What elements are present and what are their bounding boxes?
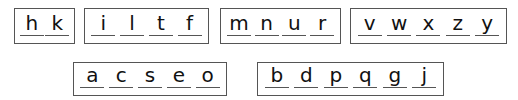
letter-cell: u — [281, 13, 307, 36]
letter: j — [421, 65, 427, 87]
writing-baseline — [149, 35, 173, 36]
letter-group-box: acseo — [73, 62, 227, 96]
letter: m — [229, 13, 248, 35]
letter: h — [25, 13, 38, 35]
letter-cell: w — [386, 13, 412, 36]
letter-cell: l — [119, 13, 145, 36]
letter-cell: n — [254, 13, 280, 36]
writing-baseline — [324, 87, 348, 88]
letter: r — [318, 13, 326, 35]
writing-baseline — [265, 87, 289, 88]
letter: u — [288, 13, 301, 35]
letter-group-box: iltf — [84, 8, 209, 44]
letter-cell: i — [90, 13, 116, 36]
writing-baseline — [412, 87, 436, 88]
letter: a — [86, 65, 98, 87]
letter: o — [201, 65, 213, 87]
letter-cell: g — [382, 65, 408, 88]
writing-baseline — [416, 35, 440, 36]
letter: y — [481, 13, 493, 35]
writing-baseline — [138, 87, 162, 88]
letter: g — [388, 65, 401, 87]
letter: n — [260, 13, 273, 35]
letter: d — [300, 65, 313, 87]
writing-baseline — [109, 87, 133, 88]
letter-cell: c — [108, 65, 134, 88]
letter-cell: b — [264, 65, 290, 88]
letter-cell: s — [137, 65, 163, 88]
writing-baseline — [475, 35, 499, 36]
letter: k — [51, 13, 63, 35]
writing-baseline — [446, 35, 470, 36]
writing-baseline — [120, 35, 144, 36]
letter-cell: k — [45, 13, 71, 36]
letter: t — [157, 13, 165, 35]
letter-cell: e — [166, 65, 192, 88]
writing-baseline — [167, 87, 191, 88]
letter-group-box: hk — [14, 8, 75, 44]
letter: i — [101, 13, 107, 35]
letter-cell: z — [445, 13, 471, 36]
writing-baseline — [310, 35, 334, 36]
letter-cell: v — [357, 13, 383, 36]
letter: q — [359, 65, 372, 87]
writing-baseline — [196, 87, 220, 88]
letter: e — [173, 65, 185, 87]
writing-baseline — [358, 35, 382, 36]
letter-cell: j — [411, 65, 437, 88]
writing-baseline — [387, 35, 411, 36]
writing-baseline — [80, 87, 104, 88]
writing-baseline — [294, 87, 318, 88]
letter-cell: r — [309, 13, 335, 36]
writing-baseline — [255, 35, 279, 36]
letter-cell: h — [19, 13, 45, 36]
letter: v — [364, 13, 376, 35]
letter-cell: x — [415, 13, 441, 36]
letter: b — [270, 65, 283, 87]
writing-baseline — [20, 35, 44, 36]
letter-cell: d — [293, 65, 319, 88]
letter: c — [116, 65, 127, 87]
writing-baseline — [178, 35, 202, 36]
letter-cell: t — [148, 13, 174, 36]
letter-cell: f — [177, 13, 203, 36]
letter: w — [391, 13, 407, 35]
letter: x — [423, 13, 435, 35]
letter-cell: p — [323, 65, 349, 88]
letter-group-box: bdpqgj — [257, 62, 444, 96]
writing-baseline — [91, 35, 115, 36]
writing-baseline — [227, 35, 251, 36]
letter: l — [129, 13, 135, 35]
letter: z — [453, 13, 464, 35]
letter-cell: q — [352, 65, 378, 88]
writing-baseline — [353, 87, 377, 88]
writing-baseline — [383, 87, 407, 88]
letter-group-box: vwxzy — [350, 8, 507, 44]
letter-group-box: mnur — [220, 8, 341, 44]
letter: f — [186, 13, 193, 35]
letter: p — [329, 65, 342, 87]
letter-cell: o — [195, 65, 221, 88]
writing-baseline — [45, 35, 69, 36]
writing-baseline — [282, 35, 306, 36]
letter: s — [145, 65, 155, 87]
letter-cell: a — [79, 65, 105, 88]
letter-cell: y — [474, 13, 500, 36]
letter-cell: m — [226, 13, 252, 36]
